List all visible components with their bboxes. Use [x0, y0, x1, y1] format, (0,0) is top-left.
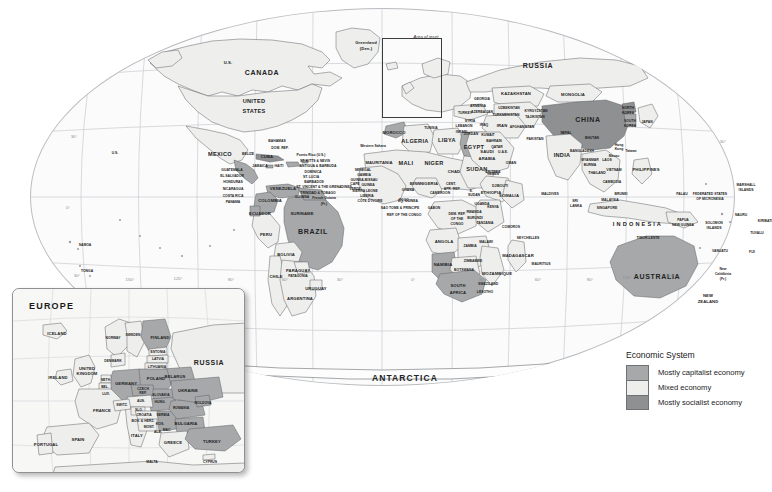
graticule-degree-label: 30° [721, 271, 728, 276]
legend-swatch-mix [626, 380, 649, 395]
inset-country-label: ICELAND [47, 331, 66, 336]
legend-item: Mostly socialist economy [626, 395, 745, 410]
legend-swatch-soc [626, 395, 649, 410]
graticule-degree-label: 0° [66, 205, 70, 210]
inset-country-label: MAC. [163, 428, 172, 432]
inset-country-label: NETH. [101, 378, 111, 382]
inset-country-label: KINGDOM [77, 371, 98, 376]
legend-label: Mixed economy [658, 383, 711, 392]
legend-item: Mixed economy [626, 380, 745, 395]
inset-country-label: DENMARK [104, 359, 121, 363]
legend-swatch-cap [626, 365, 649, 380]
inset-country-label: ALB. [154, 430, 162, 434]
inset-country-label: LATVIA [152, 357, 164, 361]
country-label: FIJI [749, 250, 755, 254]
inset-country-label: CROATIA [136, 413, 151, 417]
country-label: TUVALU [750, 231, 764, 235]
inset-country-label: FINLAND [150, 335, 169, 340]
graticule-degree-label: 150° [665, 273, 674, 278]
europe-inset-canvas: EUROPE RUSSIAICELANDNORWAYSWEDENFINLANDE… [13, 289, 244, 472]
graticule-degree-label: 30° [479, 277, 486, 282]
inset-country-label: KOS. [156, 422, 164, 426]
country-label: ISLANDS [739, 188, 754, 192]
inset-country-label: UNITED [79, 366, 95, 371]
inset-country-label: SPAIN [72, 437, 85, 442]
inset-country-label: ROMANIA [173, 406, 189, 410]
inset-country-label: CZECH [137, 387, 149, 391]
graticule-degree-label: 120° [173, 276, 182, 281]
inset-country-label: REP. [139, 391, 146, 395]
graticule-degree-label: 90° [228, 277, 235, 282]
legend-item: Mostly capitalist economy [626, 365, 745, 380]
inset-country-label: IRELAND [48, 375, 67, 380]
inset-country-label: FRANCE [93, 408, 111, 413]
graticule-degree-label: 0° [411, 277, 415, 282]
inset-country-label: CYPRUS [203, 460, 217, 464]
inset-country-label: POLAND [147, 376, 165, 381]
inset-country-label: LUX. [102, 392, 110, 396]
inset-country-label: SERBIA [157, 413, 170, 417]
legend-label: Mostly capitalist economy [658, 368, 745, 377]
legend-label: Mostly socialist economy [658, 398, 742, 407]
legend-title: Economic System [626, 350, 745, 360]
inset-country-label: BELARUS [165, 374, 186, 379]
inset-country-label: BULGARIA [175, 421, 198, 426]
inset-country-label: TURKEY [203, 439, 221, 444]
inset-country-label: BOS. & HERZ. [132, 419, 155, 423]
inset-country-label: ITALY [131, 433, 143, 438]
graticule-degree-label: 30° [71, 134, 78, 139]
inset-country-label: LITHUANIA [148, 365, 166, 369]
graticule-degree-label: 30° [337, 277, 344, 282]
graticule-degree-label: 120° [622, 275, 631, 280]
inset-country-label: GERMANY [115, 381, 137, 386]
inset-country-label: RUSSIA [194, 359, 225, 366]
europe-inset-label-layer: RUSSIAICELANDNORWAYSWEDENFINLANDESTONIAL… [13, 289, 244, 472]
inset-country-label: ESTONIA [150, 350, 165, 354]
map-legend: Economic System Mostly capitalist econom… [626, 350, 745, 410]
europe-inset-panel: EUROPE RUSSIAICELANDNORWAYSWEDENFINLANDE… [12, 288, 245, 473]
inset-country-label: HUNG. [155, 400, 166, 404]
inset-country-label: SWITZ. [116, 403, 128, 407]
graticule-degree-label: 30° [74, 273, 81, 278]
inset-country-label: SLO. [135, 408, 143, 412]
inset-country-label: UKRAINE [178, 388, 198, 393]
inset-country-label: AUS. [137, 399, 145, 403]
inset-country-label: GREECE [164, 440, 182, 445]
inset-country-label: MONT. [144, 425, 155, 429]
graticule-degree-label: 150° [125, 277, 134, 282]
country-label: KIRIBATI [758, 219, 772, 223]
inset-country-label: SWEDEN [126, 333, 141, 337]
graticule-degree-label: 30° [720, 139, 727, 144]
country-label: NAURU [735, 213, 747, 217]
inset-country-label: BEL. [101, 385, 109, 389]
country-label: MARSHALL [736, 183, 755, 187]
inset-country-label: MALTA [146, 460, 157, 464]
inset-country-label: MOLDOVA [194, 401, 211, 405]
inset-country-label: NORWAY [106, 336, 121, 340]
graticule-degree-label: 60° [535, 277, 542, 282]
legend-item-list: Mostly capitalist economyMixed economyMo… [626, 365, 745, 410]
inset-country-label: SLOVAKIA [152, 393, 169, 397]
graticule-degree-label: 90° [587, 277, 594, 282]
graticule-degree-label: 60° [282, 277, 289, 282]
inset-country-label: PORTUGAL [34, 442, 58, 447]
